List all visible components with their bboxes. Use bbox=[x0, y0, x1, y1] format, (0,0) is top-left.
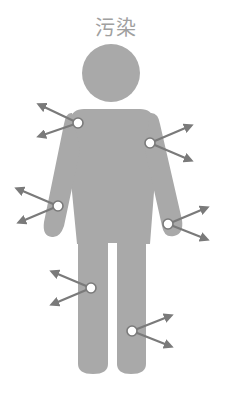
node-icon bbox=[73, 118, 83, 128]
cut-off-caption: ………… bbox=[10, 388, 225, 395]
head-shape bbox=[82, 44, 140, 102]
node-icon bbox=[53, 201, 63, 211]
node-icon bbox=[163, 219, 173, 229]
arrow-icon bbox=[40, 105, 78, 123]
node-icon bbox=[145, 138, 155, 148]
node-icon bbox=[127, 326, 137, 336]
contamination-figure bbox=[0, 0, 232, 395]
leg-gap bbox=[108, 243, 117, 383]
node-icon bbox=[86, 283, 96, 293]
